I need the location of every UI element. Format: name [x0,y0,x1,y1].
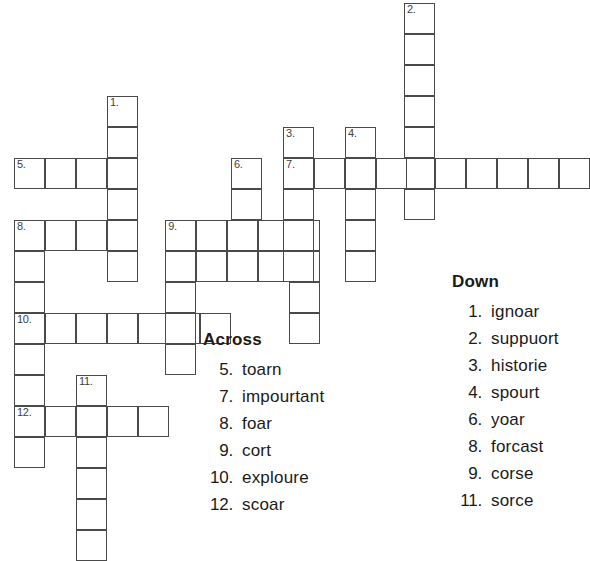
cell-number: 3. [286,127,295,139]
crossword-cell[interactable] [76,158,107,189]
crossword-cell[interactable] [231,189,262,220]
crossword-cell[interactable]: 5. [14,158,45,189]
cell-number: 5. [17,158,26,170]
clue-number: 8. [452,433,491,460]
cell-number: 11. [79,375,93,387]
crossword-cell[interactable] [289,282,320,313]
clue-number: 9. [203,437,242,464]
crossword-cell[interactable] [283,220,314,251]
crossword-cell[interactable] [227,251,258,282]
crossword-cell[interactable] [345,251,376,282]
crossword-cell[interactable] [14,375,45,406]
crossword-cell[interactable] [107,220,138,251]
crossword-cell[interactable] [76,530,107,561]
clue-number: 2. [452,325,491,352]
clue-item: 6.yoar [452,406,559,433]
crossword-cell[interactable] [376,158,407,189]
crossword-cell[interactable] [404,127,435,158]
clue-word: forcast [491,433,543,460]
crossword-cell[interactable]: 8. [14,220,45,251]
crossword-cell[interactable] [45,158,76,189]
crossword-cell[interactable] [404,65,435,96]
clue-number: 12. [203,491,242,518]
clue-word: scoar [242,491,285,518]
crossword-cell[interactable] [107,251,138,282]
crossword-cell[interactable]: 11. [76,375,107,406]
crossword-cell[interactable]: 10. [14,313,45,344]
clue-item: 5.toarn [203,356,324,383]
cell-number: 1. [110,96,119,108]
crossword-cell[interactable] [314,158,345,189]
crossword-cell[interactable] [345,189,376,220]
clue-number: 1. [452,298,491,325]
clue-item: 7.impourtant [203,383,324,410]
crossword-cell[interactable]: 12. [14,406,45,437]
crossword-cell[interactable] [107,158,138,189]
crossword-cell[interactable] [283,251,314,282]
crossword-cell[interactable] [435,158,466,189]
crossword-cell[interactable] [14,282,45,313]
crossword-cell[interactable] [466,158,497,189]
clue-number: 6. [452,406,491,433]
crossword-cell[interactable] [196,251,227,282]
clue-word: exploure [242,464,309,491]
crossword-cell[interactable]: 4. [345,127,376,158]
crossword-cell[interactable]: 1. [107,96,138,127]
clue-item: 1.ignoar [452,298,559,325]
crossword-cell[interactable] [165,282,196,313]
crossword-cell[interactable]: 3. [283,127,314,158]
crossword-cell[interactable] [404,189,435,220]
crossword-cell[interactable] [404,158,435,189]
crossword-cell[interactable] [76,220,107,251]
crossword-cell[interactable] [107,406,138,437]
clue-number: 5. [203,356,242,383]
crossword-cell[interactable] [45,220,76,251]
crossword-cell[interactable] [107,127,138,158]
cell-number: 4. [348,127,357,139]
crossword-cell[interactable] [107,189,138,220]
crossword-cell[interactable] [227,220,258,251]
crossword-cell[interactable] [165,313,196,344]
crossword-cell[interactable] [45,313,76,344]
crossword-cell[interactable] [14,251,45,282]
crossword-cell[interactable] [345,220,376,251]
clue-word: historie [491,352,547,379]
crossword-cell[interactable]: 9. [165,220,196,251]
clue-item: 9.corse [452,460,559,487]
crossword-cell[interactable] [76,468,107,499]
crossword-cell[interactable] [497,158,528,189]
crossword-cell[interactable] [196,220,227,251]
clue-item: 9.cort [203,437,324,464]
down-clue-list: 1.ignoar2.suppuort3.historie4.spourt6.yo… [452,298,559,514]
crossword-cell[interactable] [45,406,76,437]
crossword-cell[interactable] [345,158,376,189]
crossword-cell[interactable] [14,344,45,375]
crossword-cell[interactable] [14,437,45,468]
crossword-cell[interactable] [559,158,590,189]
crossword-cell[interactable] [165,344,196,375]
crossword-cell[interactable] [76,499,107,530]
crossword-cell[interactable] [76,313,107,344]
crossword-cell[interactable] [165,251,196,282]
clue-number: 8. [203,410,242,437]
crossword-cell[interactable] [404,34,435,65]
clue-item: 4.spourt [452,379,559,406]
clue-word: toarn [242,356,282,383]
crossword-cell[interactable] [283,189,314,220]
crossword-cell[interactable]: 6. [231,158,262,189]
clue-word: ignoar [491,298,539,325]
crossword-cell[interactable] [404,96,435,127]
crossword-cell[interactable] [528,158,559,189]
crossword-cell[interactable] [76,406,107,437]
clue-word: yoar [491,406,525,433]
across-clues-section: Across 5.toarn7.impourtant8.foar9.cort10… [203,330,324,518]
cell-number: 2. [407,3,416,15]
crossword-cell[interactable]: 2. [404,3,435,34]
crossword-cell[interactable] [107,313,138,344]
crossword-cell[interactable] [76,437,107,468]
clue-number: 4. [452,379,491,406]
cell-number: 8. [17,220,26,232]
cell-number: 7. [286,158,295,170]
crossword-cell[interactable]: 7. [283,158,314,189]
crossword-cell[interactable] [138,406,169,437]
